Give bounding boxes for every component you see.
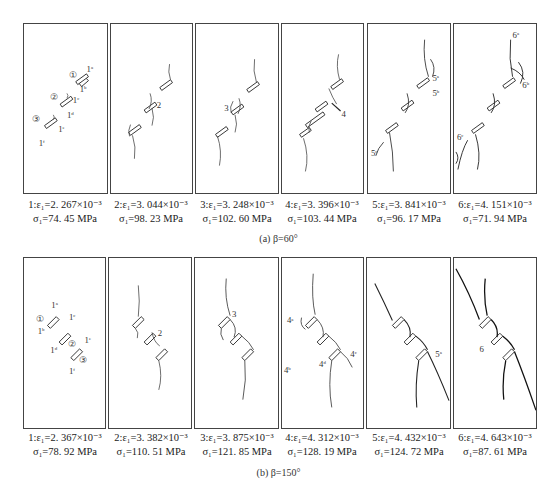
specimen-panel-b6: 6: [453, 257, 537, 429]
crack-pattern-b1: ① ② ③ 1a 1b 1c 1d 1e 1f: [24, 258, 105, 428]
stress-value: σ₁=102. 60 MPa: [192, 212, 282, 226]
caption-b5: 5:ε₁=4. 432×10⁻³ σ₁=124. 72 MPa: [364, 431, 454, 459]
strain-value: 5:ε₁=3. 841×10⁻³: [364, 198, 454, 212]
strain-value: 6:ε₁=4. 643×10⁻³: [450, 431, 540, 445]
svg-text:4a: 4a: [287, 315, 294, 325]
svg-text:②: ②: [68, 339, 76, 349]
stress-value: σ₁=74. 45 MPa: [20, 212, 110, 226]
svg-text:3: 3: [232, 309, 237, 319]
specimen-panel-b2: 2: [108, 257, 192, 429]
specimen-panel-b5: 5a: [366, 257, 451, 429]
stress-value: σ₁=87. 61 MPa: [450, 445, 540, 459]
crack-pattern-b5: 5a: [367, 258, 450, 428]
crack-pattern-a5: 5a 5b 5c: [368, 24, 450, 193]
specimen-panel-a1: ① ② ③ 1a 1b 1c 1d 1e 1f: [23, 23, 108, 194]
strain-value: 3:ε₁=3. 248×10⁻³: [192, 198, 282, 212]
svg-text:1f: 1f: [39, 138, 45, 148]
svg-text:③: ③: [79, 355, 87, 365]
stress-value: σ₁=121. 85 MPa: [192, 445, 282, 459]
flaw-label-1: ①: [69, 70, 77, 80]
specimen-panel-a5: 5a 5b 5c: [367, 23, 451, 194]
strain-value: 4:ε₁=4. 312×10⁻³: [277, 431, 367, 445]
caption-b2: 2:ε₁=3. 382×10⁻³ σ₁=110. 51 MPa: [106, 431, 196, 459]
subcaption-a: (a) β=60°: [0, 233, 557, 244]
stress-value: σ₁=110. 51 MPa: [106, 445, 196, 459]
svg-text:4b: 4b: [284, 365, 291, 375]
strain-value: 4:ε₁=3. 396×10⁻³: [277, 198, 367, 212]
svg-text:4: 4: [342, 109, 347, 119]
svg-text:1b: 1b: [80, 84, 87, 94]
stress-value: σ₁=124. 72 MPa: [364, 445, 454, 459]
caption-a5: 5:ε₁=3. 841×10⁻³ σ₁=96. 17 MPa: [364, 198, 454, 226]
svg-text:1a: 1a: [51, 300, 58, 310]
svg-text:6: 6: [479, 344, 484, 354]
svg-text:5a: 5a: [432, 73, 439, 83]
specimen-panel-b4: 4a 4b 4c 4d: [281, 257, 364, 429]
strain-value: 1:ε₁=2. 267×10⁻³: [20, 198, 110, 212]
stress-value: σ₁=71. 94 MPa: [450, 212, 540, 226]
strain-value: 1:ε₁=2. 367×10⁻³: [20, 431, 110, 445]
crack-pattern-b4: 4a 4b 4c 4d: [282, 258, 363, 428]
svg-text:6c: 6c: [457, 132, 464, 142]
caption-b6: 6:ε₁=4. 643×10⁻³ σ₁=87. 61 MPa: [450, 431, 540, 459]
svg-text:4c: 4c: [350, 349, 357, 359]
caption-a6: 6:ε₁=4. 151×10⁻³ σ₁=71. 94 MPa: [450, 198, 540, 226]
crack-pattern-b6: 6: [454, 258, 536, 428]
svg-text:1d: 1d: [50, 345, 57, 355]
svg-text:1f: 1f: [69, 366, 75, 376]
caption-b4: 4:ε₁=4. 312×10⁻³ σ₁=128. 19 MPa: [277, 431, 367, 459]
svg-text:3: 3: [224, 103, 229, 113]
caption-b1: 1:ε₁=2. 367×10⁻³ σ₁=78. 92 MPa: [20, 431, 110, 459]
stress-value: σ₁=78. 92 MPa: [20, 445, 110, 459]
svg-text:2: 2: [157, 100, 161, 110]
specimen-panel-a4: 4: [281, 23, 364, 194]
flaw-label-2: ②: [50, 92, 58, 102]
stress-value: σ₁=103. 44 MPa: [277, 212, 367, 226]
caption-a4: 4:ε₁=3. 396×10⁻³ σ₁=103. 44 MPa: [277, 198, 367, 226]
crack-pattern-b3: 3: [195, 258, 278, 428]
caption-b3: 3:ε₁=3. 875×10⁻³ σ₁=121. 85 MPa: [192, 431, 282, 459]
svg-text:1e: 1e: [58, 124, 65, 134]
svg-text:4d: 4d: [319, 359, 326, 369]
flaw-label-3: ③: [32, 114, 40, 124]
crack-pattern-a3: 3: [196, 24, 278, 193]
specimen-panel-a6: 6a 6b 6c: [453, 23, 537, 194]
caption-a1: 1:ε₁=2. 267×10⁻³ σ₁=74. 45 MPa: [20, 198, 110, 226]
specimen-panel-b1: ① ② ③ 1a 1b 1c 1d 1e 1f: [23, 257, 106, 429]
strain-value: 3:ε₁=3. 875×10⁻³: [192, 431, 282, 445]
strain-value: 2:ε₁=3. 382×10⁻³: [106, 431, 196, 445]
stress-value: σ₁=98. 23 MPa: [106, 212, 196, 226]
strain-value: 5:ε₁=4. 432×10⁻³: [364, 431, 454, 445]
svg-text:1c: 1c: [73, 95, 80, 105]
stress-value: σ₁=128. 19 MPa: [277, 445, 367, 459]
svg-text:5c: 5c: [371, 148, 378, 158]
specimen-panel-a3: 3: [195, 23, 279, 194]
crack-pattern-a4: 4: [282, 24, 363, 193]
caption-a3: 3:ε₁=3. 248×10⁻³ σ₁=102. 60 MPa: [192, 198, 282, 226]
svg-text:1d: 1d: [67, 110, 74, 120]
crack-pattern-b2: 2: [109, 258, 191, 428]
specimen-panel-a2: 2: [110, 23, 193, 194]
strain-value: 2:ε₁=3. 044×10⁻³: [106, 198, 196, 212]
crack-pattern-a6: 6a 6b 6c: [454, 24, 536, 193]
caption-a2: 2:ε₁=3. 044×10⁻³ σ₁=98. 23 MPa: [106, 198, 196, 226]
crack-pattern-a1: ① ② ③ 1a 1b 1c 1d 1e 1f: [24, 24, 107, 193]
stress-value: σ₁=96. 17 MPa: [364, 212, 454, 226]
svg-text:5b: 5b: [432, 88, 439, 98]
svg-text:①: ①: [36, 314, 44, 324]
svg-text:6b: 6b: [522, 80, 529, 90]
svg-text:5a: 5a: [435, 349, 442, 359]
svg-text:1a: 1a: [86, 64, 93, 74]
svg-text:2: 2: [158, 328, 162, 338]
crack-pattern-a2: 2: [111, 24, 192, 193]
specimen-panel-b3: 3: [194, 257, 279, 429]
subcaption-b: (b) β=150°: [0, 467, 557, 478]
svg-text:1b: 1b: [38, 326, 45, 336]
strain-value: 6:ε₁=4. 151×10⁻³: [450, 198, 540, 212]
svg-text:6a: 6a: [513, 30, 520, 40]
svg-text:1c: 1c: [69, 312, 76, 322]
svg-text:1e: 1e: [85, 335, 92, 345]
